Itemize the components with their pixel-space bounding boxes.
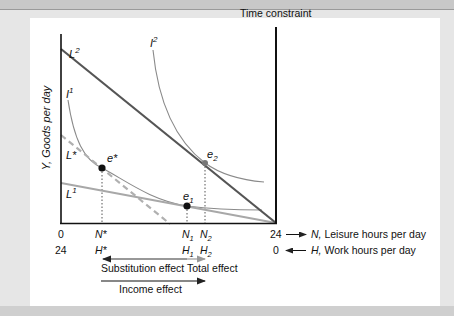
n-tick-n1: N1	[182, 228, 194, 243]
label-l1: L1	[66, 186, 77, 200]
h-tick-0: 0	[273, 244, 279, 256]
n-tick-24: 24	[270, 228, 282, 240]
n-tick-n-star: N*	[95, 228, 108, 240]
indifference-curve-i1	[68, 100, 262, 210]
h-tick-24: 24	[55, 244, 67, 256]
label-i1: I1	[66, 86, 74, 100]
total-effect-label: Total effect	[187, 262, 238, 274]
label-e1: e1	[183, 190, 194, 205]
label-i2: I2	[150, 35, 158, 49]
h-tick-h-star: H*	[95, 244, 108, 256]
time-constraint-label: Time constraint	[240, 7, 311, 19]
y-axis-label: Y, Goods per day	[40, 84, 52, 170]
h-tick-h1: H1	[182, 244, 194, 259]
label-l2: L2	[69, 46, 80, 60]
labor-leisure-diagram: Y, Goods per day Time constraint L2 I2 I…	[0, 0, 454, 316]
n-tick-0: 0	[58, 228, 64, 240]
budget-line-l-star	[61, 135, 170, 224]
label-l-star: L*	[66, 149, 77, 161]
label-e-star: e*	[107, 152, 118, 164]
income-effect-label: Income effect	[119, 283, 182, 295]
n-axis-label: N, Leisure hours per day	[311, 228, 427, 240]
n-tick-n2: N2	[200, 228, 213, 243]
point-e2	[202, 160, 208, 166]
h-tick-h2: H2	[200, 244, 213, 259]
substitution-effect-label: Substitution effect	[101, 262, 184, 274]
point-e-star	[98, 164, 105, 171]
budget-line-l1	[61, 183, 276, 223]
label-e2: e2	[207, 148, 218, 163]
indifference-curve-i2	[153, 50, 264, 182]
budget-line-l2	[61, 49, 276, 223]
h-axis-label: H, Work hours per day	[311, 244, 417, 256]
